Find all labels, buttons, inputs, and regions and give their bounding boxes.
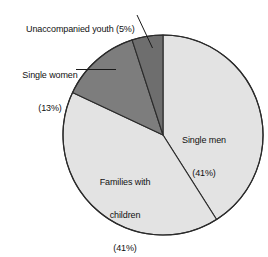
slice-label-families-line3: (41%)	[88, 243, 162, 254]
slice-label-single-women-line1: Single women	[8, 70, 92, 81]
slice-label-single-women-line2: (13%)	[8, 103, 92, 114]
slice-label-families-line1: Families with	[88, 177, 162, 188]
slice-label-single-men-line1: Single men	[176, 135, 232, 146]
slice-label-single-men-line2: (41%)	[176, 168, 232, 179]
slice-label-families-with-children: Families with children (41%)	[88, 155, 162, 257]
slice-label-single-women: Single women (13%)	[8, 48, 92, 136]
slice-label-single-men: Single men (41%)	[176, 113, 232, 201]
slice-label-families-line2: children	[88, 210, 162, 221]
slice-label-unaccompanied-youth-line1: Unaccompanied youth (5%)	[26, 24, 135, 35]
